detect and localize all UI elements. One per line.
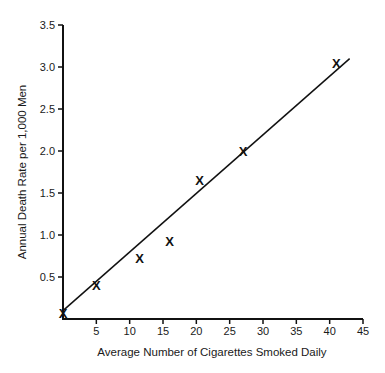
y-axis-title: Annual Death Rate per 1,000 Men <box>16 85 28 260</box>
x-tick-label: 15 <box>157 325 169 337</box>
x-axis-title: Average Number of Cigarettes Smoked Dail… <box>97 346 327 358</box>
x-marker-point: X <box>239 144 248 159</box>
y-tick-label: 2.0 <box>40 145 55 157</box>
x-tick-label: 5 <box>93 325 99 337</box>
y-tick-label: 3.5 <box>40 19 55 31</box>
x-marker-point: X <box>59 306 68 321</box>
y-tick-label: 2.5 <box>40 103 55 115</box>
x-marker-point: X <box>332 56 341 71</box>
x-marker-point: X <box>165 234 174 249</box>
y-tick-label: 0.5 <box>40 271 55 283</box>
data-points: XXXXXXX <box>59 56 341 321</box>
x-tick-label: 30 <box>257 325 269 337</box>
y-axis-ticks: 0.51.01.52.02.53.03.5 <box>40 19 63 283</box>
y-tick-label: 1.5 <box>40 187 55 199</box>
regression-line <box>63 59 350 311</box>
x-marker-point: X <box>195 173 204 188</box>
y-tick-label: 3.0 <box>40 61 55 73</box>
x-tick-label: 40 <box>324 325 336 337</box>
x-marker-point: X <box>92 278 101 293</box>
axes <box>62 25 363 320</box>
x-tick-label: 10 <box>124 325 136 337</box>
chart: 0.51.01.52.02.53.03.5 51015202530354045 … <box>0 0 385 373</box>
x-tick-label: 35 <box>290 325 302 337</box>
x-marker-point: X <box>135 251 144 266</box>
x-tick-label: 25 <box>224 325 236 337</box>
fitted-line <box>63 59 350 311</box>
x-tick-label: 45 <box>357 325 369 337</box>
x-axis-ticks: 51015202530354045 <box>93 319 369 337</box>
x-tick-label: 20 <box>190 325 202 337</box>
y-tick-label: 1.0 <box>40 229 55 241</box>
